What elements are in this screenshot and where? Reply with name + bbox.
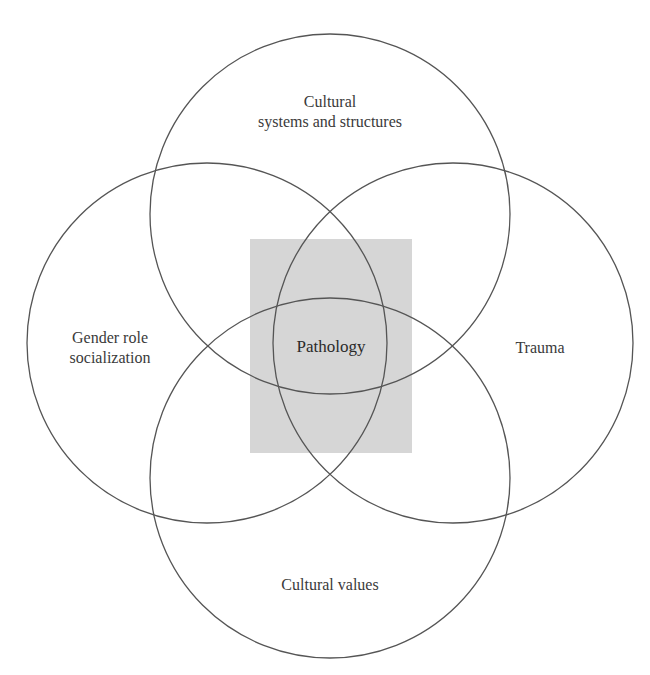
label-pathology: Pathology <box>250 337 412 357</box>
label-line: socialization <box>20 348 200 368</box>
label-cultural-values: Cultural values <box>230 575 430 595</box>
label-line: Cultural <box>230 92 430 112</box>
label-line: Gender role <box>20 328 200 348</box>
label-line: Cultural values <box>230 575 430 595</box>
label-line: Pathology <box>250 337 412 357</box>
label-line: systems and structures <box>230 112 430 132</box>
label-trauma: Trauma <box>480 338 600 358</box>
label-gender-role: Gender role socialization <box>20 328 200 368</box>
label-cultural-systems: Cultural systems and structures <box>230 92 430 132</box>
label-line: Trauma <box>480 338 600 358</box>
